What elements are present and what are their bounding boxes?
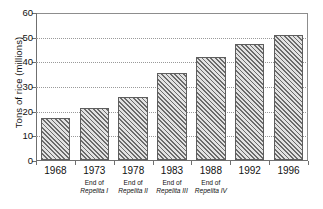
x-axis-year-label: 1988 [191, 165, 230, 177]
x-axis-sublabel: End ofRepelita IV [191, 179, 230, 194]
bar [80, 108, 110, 160]
x-axis-sublabel: End ofRepelita III [153, 179, 192, 194]
bar [235, 44, 265, 160]
y-tick-label: 30 [22, 81, 33, 92]
x-axis-year-label: 1978 [114, 165, 153, 177]
bar-slot [230, 13, 269, 160]
x-axis-label-group: 1996 [269, 165, 308, 177]
bar [196, 57, 226, 159]
x-axis-labels: 19681973End ofRepelita I1978End ofRepeli… [36, 165, 308, 205]
x-axis-year-label: 1983 [153, 165, 192, 177]
y-tick-label: 20 [22, 106, 33, 117]
x-axis-label-group: 1973End ofRepelita I [75, 165, 114, 194]
x-axis-year-label: 1968 [36, 165, 75, 177]
y-tick-label: 40 [22, 56, 33, 67]
figure-rice-production-chart: Tons of rice (millions) 0102030405060 19… [0, 0, 323, 209]
figure-caption [44, 200, 323, 209]
y-tick-label: 60 [22, 7, 33, 18]
y-tick-label: 0 [28, 155, 33, 166]
bar [274, 35, 304, 160]
bar-slot [153, 13, 192, 160]
bar-slot [114, 13, 153, 160]
bar [157, 73, 187, 159]
x-axis-year-label: 1996 [269, 165, 308, 177]
bar-slot [36, 13, 75, 160]
x-tick-mark [308, 161, 309, 165]
bar-slot [75, 13, 114, 160]
x-axis-sublabel: End ofRepelita II [114, 179, 153, 194]
bar-series [36, 13, 308, 160]
x-axis-label-group: 1992 [230, 165, 269, 177]
x-axis-sublabel: End ofRepelita I [75, 179, 114, 194]
y-tick-label: 50 [22, 32, 33, 43]
bar [41, 118, 71, 160]
bar-slot [191, 13, 230, 160]
x-axis-label-group: 1988End ofRepelita IV [191, 165, 230, 194]
bar-slot [269, 13, 308, 160]
x-axis-label-group: 1983End ofRepelita III [153, 165, 192, 194]
y-tick-label: 10 [22, 130, 33, 141]
x-axis-label-group: 1978End ofRepelita II [114, 165, 153, 194]
bar [118, 97, 148, 160]
x-axis-label-group: 1968 [36, 165, 75, 177]
plot-area: 0102030405060 [36, 13, 308, 161]
x-axis-year-label: 1992 [230, 165, 269, 177]
x-axis-year-label: 1973 [75, 165, 114, 177]
